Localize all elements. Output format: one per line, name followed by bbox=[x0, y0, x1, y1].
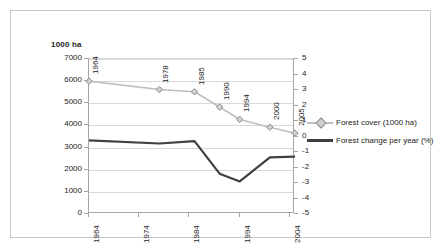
data-point-marker bbox=[156, 86, 162, 92]
y-axis-left-tick-label: 5000 bbox=[44, 97, 82, 106]
x-axis-tick-label: 1974 bbox=[142, 225, 151, 243]
y-axis-right-tick-mark bbox=[294, 167, 298, 168]
legend-item-forest-change: Forest change per year (%) bbox=[307, 132, 433, 150]
y-axis-right-tick-mark bbox=[294, 213, 298, 214]
y-axis-right-tick-mark bbox=[294, 136, 298, 137]
legend-swatch-thick-line-icon bbox=[307, 136, 333, 146]
data-point-marker bbox=[267, 124, 273, 130]
data-point-label: 1994 bbox=[242, 95, 251, 113]
legend-label: Forest cover (1000 ha) bbox=[336, 118, 417, 128]
y-axis-left-tick-mark bbox=[84, 58, 88, 59]
series-line bbox=[89, 140, 295, 181]
y-axis-right-tick-mark bbox=[294, 89, 298, 90]
y-axis-right-tick-label: -4 bbox=[302, 193, 309, 202]
chart-legend: Forest cover (1000 ha) Forest change per… bbox=[307, 114, 433, 150]
y-axis-right-tick-mark bbox=[294, 74, 298, 75]
x-axis-tick-label: 1994 bbox=[243, 225, 252, 243]
series-line bbox=[89, 81, 295, 133]
y-axis-right-tick-mark bbox=[294, 105, 298, 106]
y-axis-right-tick-label: 4 bbox=[302, 69, 306, 78]
y-axis-left-tick-label: 3000 bbox=[44, 142, 82, 151]
y-axis-right-tick-label: 5 bbox=[302, 53, 306, 62]
plot-area bbox=[88, 58, 294, 213]
y-axis-right-tick-label: 0 bbox=[302, 131, 306, 140]
y-axis-left-tick-label: 7000 bbox=[44, 53, 82, 62]
series-layer bbox=[89, 59, 295, 214]
data-point-label: 1964 bbox=[91, 56, 100, 74]
y-axis-left-tick-mark bbox=[84, 80, 88, 81]
y-axis-left-tick-label: 0 bbox=[44, 208, 82, 217]
x-axis-tick-label: 1964 bbox=[92, 225, 101, 243]
x-axis-tick-mark bbox=[138, 213, 139, 217]
y-axis-right-tick-label: 3 bbox=[302, 84, 306, 93]
data-point-label: 1978 bbox=[161, 65, 170, 83]
x-axis-tick-mark bbox=[88, 213, 89, 217]
y-axis-unit-label: 1000 ha bbox=[51, 40, 82, 49]
y-axis-left-tick-mark bbox=[84, 169, 88, 170]
y-axis-left-tick-label: 2000 bbox=[44, 164, 82, 173]
y-axis-right-tick-label: -3 bbox=[302, 177, 309, 186]
x-axis-tick-mark bbox=[289, 213, 290, 217]
y-axis-right-tick-mark bbox=[294, 182, 298, 183]
y-axis-right-tick-label: -2 bbox=[302, 162, 309, 171]
y-axis-right-tick-mark bbox=[294, 198, 298, 199]
legend-item-forest-cover: Forest cover (1000 ha) bbox=[307, 114, 433, 132]
legend-swatch-line-marker-icon bbox=[307, 118, 333, 128]
y-axis-right-tick-mark bbox=[294, 151, 298, 152]
y-axis-left-tick-mark bbox=[84, 147, 88, 148]
data-point-marker bbox=[86, 78, 92, 84]
data-point-label: 1985 bbox=[197, 67, 206, 85]
y-axis-left-tick-label: 6000 bbox=[44, 75, 82, 84]
data-point-label: 1990 bbox=[222, 82, 231, 100]
y-axis-left-tick-label: 1000 bbox=[44, 186, 82, 195]
x-axis-tick-label: 1984 bbox=[192, 225, 201, 243]
y-axis-left-tick-mark bbox=[84, 191, 88, 192]
legend-label: Forest change per year (%) bbox=[336, 136, 433, 146]
y-axis-left-tick-mark bbox=[84, 124, 88, 125]
y-axis-left-tick-mark bbox=[84, 102, 88, 103]
chart-screenshot: 1000 ha 01000200030004000500060007000 -5… bbox=[0, 0, 443, 249]
data-point-label: 2005 bbox=[297, 108, 306, 126]
y-axis-right-tick-mark bbox=[294, 58, 298, 59]
y-axis-left-tick-label: 4000 bbox=[44, 119, 82, 128]
x-axis-tick-mark bbox=[239, 213, 240, 217]
chart-frame: 1000 ha 01000200030004000500060007000 -5… bbox=[10, 10, 431, 238]
x-axis-tick-label: 2004 bbox=[293, 225, 302, 243]
x-axis-tick-mark bbox=[188, 213, 189, 217]
data-point-label: 2000 bbox=[272, 102, 281, 120]
y-axis-right-tick-label: -5 bbox=[302, 208, 309, 217]
